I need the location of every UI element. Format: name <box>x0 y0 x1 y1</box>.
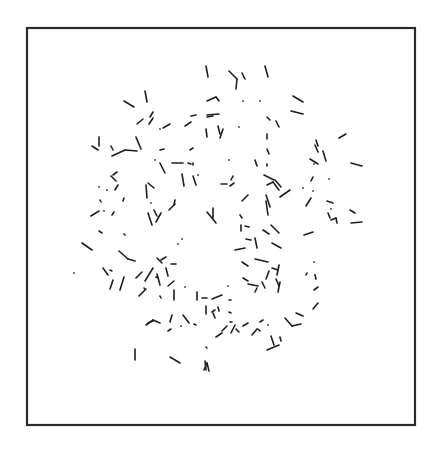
dot <box>154 159 156 161</box>
line-segment <box>137 119 143 124</box>
line-segment <box>267 182 273 185</box>
dot <box>227 285 229 287</box>
dot <box>328 178 330 180</box>
line-segment <box>236 329 239 332</box>
dot <box>313 163 315 165</box>
line-segment <box>194 324 196 325</box>
dot <box>180 325 182 327</box>
line-segment <box>229 71 237 79</box>
line-segment <box>267 345 279 350</box>
line-segment <box>311 177 313 181</box>
line-segment <box>313 303 318 309</box>
line-segment <box>213 313 215 318</box>
line-segment <box>212 310 215 312</box>
line-segment <box>336 218 337 223</box>
line-segment <box>82 243 92 250</box>
line-segment <box>207 363 209 371</box>
line-segment <box>160 149 164 150</box>
line-segment <box>267 149 269 154</box>
line-segment <box>92 146 98 150</box>
line-segment <box>148 213 152 225</box>
line-segment <box>146 185 147 198</box>
line-segment <box>112 150 125 156</box>
line-segment <box>272 268 278 270</box>
line-segment <box>174 200 175 205</box>
line-segment <box>103 268 108 275</box>
line-segment <box>350 210 355 213</box>
line-segment <box>264 175 274 180</box>
line-segment <box>272 243 281 248</box>
line-segment <box>206 66 208 77</box>
line-segment <box>216 333 222 337</box>
line-segment <box>292 324 301 326</box>
line-segment <box>150 112 153 117</box>
line-segment <box>120 277 124 290</box>
line-segment <box>280 337 281 341</box>
dot-cloud <box>73 100 332 327</box>
line-segment <box>182 174 184 186</box>
line-segment <box>163 124 170 128</box>
line-segment <box>323 151 326 161</box>
line-segment <box>235 248 245 250</box>
dot <box>330 208 332 210</box>
line-segment <box>99 231 102 233</box>
line-segment <box>170 315 172 322</box>
line-segment <box>207 116 213 117</box>
line-segment <box>231 325 235 333</box>
dot <box>259 100 261 102</box>
line-segment <box>248 284 258 286</box>
dot <box>242 100 244 102</box>
line-segment <box>339 134 346 138</box>
line-segment <box>170 357 180 363</box>
line-segment <box>154 210 157 216</box>
line-segment <box>218 307 219 311</box>
line-segment <box>160 296 161 298</box>
dot <box>73 272 75 274</box>
dot <box>267 324 269 326</box>
line-segment <box>160 163 165 173</box>
dot <box>314 274 316 276</box>
line-segment <box>265 66 268 77</box>
line-segment <box>125 150 137 151</box>
dot <box>159 128 161 130</box>
line-segment <box>145 268 153 281</box>
dot <box>98 186 100 188</box>
line-segment <box>291 111 303 114</box>
dot <box>312 190 314 192</box>
line-segment <box>153 320 160 323</box>
dot <box>302 187 304 189</box>
line-segment-cloud <box>82 66 362 371</box>
dot <box>313 261 315 263</box>
line-segment <box>115 185 118 190</box>
dot <box>124 234 126 236</box>
dot <box>238 126 240 128</box>
line-segment <box>191 115 196 116</box>
line-segment <box>139 289 146 296</box>
line-segment <box>267 117 270 120</box>
line-segment <box>271 336 274 345</box>
line-segment <box>193 176 196 185</box>
line-segment <box>229 312 231 313</box>
square-frame <box>27 28 415 425</box>
line-segment <box>161 257 166 260</box>
line-segment <box>236 79 237 89</box>
line-segment <box>304 232 313 235</box>
dot <box>181 238 183 240</box>
line-segment <box>183 315 189 323</box>
line-segment <box>271 225 279 233</box>
line-segment <box>276 121 279 127</box>
line-segment <box>242 73 245 79</box>
line-segment <box>242 195 248 201</box>
dot <box>197 174 199 176</box>
line-segment <box>260 320 263 322</box>
line-segment <box>136 272 142 278</box>
line-segment <box>276 279 279 286</box>
line-segment <box>258 329 260 331</box>
dot <box>184 286 186 288</box>
line-segment <box>166 268 168 276</box>
line-segment <box>246 239 251 240</box>
dot <box>150 202 152 204</box>
line-segment <box>110 280 113 289</box>
line-segment <box>218 126 220 134</box>
line-segment <box>242 262 248 266</box>
